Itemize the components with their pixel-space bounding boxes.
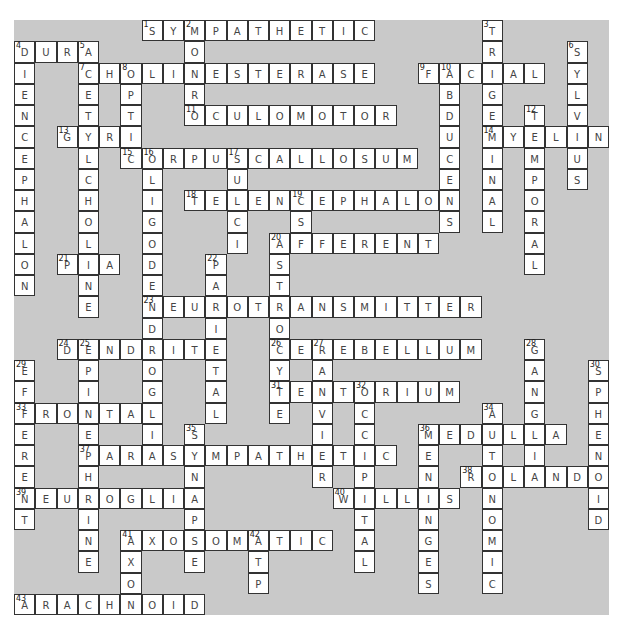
crossword-cell[interactable]: P — [205, 20, 226, 41]
crossword-cell[interactable]: E — [418, 445, 439, 466]
crossword-cell[interactable]: A — [57, 594, 78, 615]
crossword-cell[interactable]: I — [205, 318, 226, 339]
crossword-cell[interactable]: L — [524, 424, 545, 445]
crossword-cell[interactable]: N — [269, 190, 290, 211]
crossword-cell[interactable]: A — [354, 530, 375, 551]
crossword-cell[interactable]: L — [418, 339, 439, 360]
crossword-cell[interactable]: O — [227, 296, 248, 317]
crossword-cell[interactable]: T — [482, 445, 503, 466]
crossword-cell[interactable]: P — [227, 445, 248, 466]
crossword-cell[interactable]: 5A — [78, 41, 99, 62]
crossword-cell[interactable]: N — [545, 466, 566, 487]
crossword-cell[interactable]: C — [354, 424, 375, 445]
crossword-cell[interactable]: Y — [269, 360, 290, 381]
crossword-cell[interactable]: L — [227, 190, 248, 211]
crossword-cell[interactable]: A — [227, 20, 248, 41]
crossword-cell[interactable]: E — [354, 63, 375, 84]
crossword-cell[interactable]: M — [397, 148, 418, 169]
crossword-cell[interactable]: L — [354, 551, 375, 572]
crossword-cell[interactable]: U — [205, 148, 226, 169]
crossword-cell[interactable]: I — [567, 126, 588, 147]
crossword-cell[interactable]: E — [418, 551, 439, 572]
crossword-cell[interactable]: A — [524, 360, 545, 381]
crossword-cell[interactable]: E — [375, 233, 396, 254]
crossword-cell[interactable]: Y — [567, 63, 588, 84]
crossword-cell[interactable]: M — [205, 445, 226, 466]
crossword-cell[interactable]: C — [227, 211, 248, 232]
crossword-cell[interactable]: A — [545, 424, 566, 445]
crossword-cell[interactable]: A — [269, 148, 290, 169]
crossword-cell[interactable]: O — [269, 105, 290, 126]
crossword-cell[interactable]: H — [588, 403, 609, 424]
crossword-cell[interactable]: 4D — [14, 41, 35, 62]
crossword-cell[interactable]: G — [120, 488, 141, 509]
crossword-cell[interactable]: G — [524, 403, 545, 424]
crossword-cell[interactable]: O — [142, 233, 163, 254]
crossword-cell[interactable]: I — [142, 424, 163, 445]
crossword-cell[interactable]: P — [354, 466, 375, 487]
crossword-cell[interactable]: N — [439, 190, 460, 211]
crossword-cell[interactable]: N — [120, 594, 141, 615]
crossword-cell[interactable]: L — [14, 233, 35, 254]
crossword-cell[interactable]: M — [482, 530, 503, 551]
crossword-cell[interactable]: N — [312, 381, 333, 402]
crossword-cell[interactable]: E — [290, 339, 311, 360]
crossword-cell[interactable]: L — [397, 190, 418, 211]
crossword-cell[interactable]: O — [524, 190, 545, 211]
crossword-cell[interactable]: I — [397, 381, 418, 402]
crossword-cell[interactable]: N — [184, 466, 205, 487]
crossword-cell[interactable]: E — [78, 424, 99, 445]
crossword-cell[interactable]: E — [205, 339, 226, 360]
crossword-cell[interactable]: P — [78, 360, 99, 381]
crossword-cell[interactable]: N — [524, 381, 545, 402]
crossword-cell[interactable]: R — [99, 126, 120, 147]
crossword-cell[interactable]: T — [120, 105, 141, 126]
crossword-cell[interactable]: I — [14, 63, 35, 84]
crossword-cell[interactable]: E — [205, 190, 226, 211]
crossword-cell[interactable]: H — [354, 190, 375, 211]
crossword-cell[interactable]: L — [78, 233, 99, 254]
crossword-cell[interactable]: M — [524, 148, 545, 169]
crossword-cell[interactable]: B — [354, 339, 375, 360]
crossword-cell[interactable]: 30S — [588, 360, 609, 381]
crossword-cell[interactable]: 33F — [14, 403, 35, 424]
crossword-cell[interactable]: 10A — [439, 63, 460, 84]
crossword-cell[interactable]: H — [99, 63, 120, 84]
crossword-cell[interactable]: O — [312, 105, 333, 126]
crossword-cell[interactable]: 34A — [482, 403, 503, 424]
crossword-cell[interactable]: O — [333, 148, 354, 169]
crossword-cell[interactable]: I — [227, 233, 248, 254]
crossword-cell[interactable]: 40W — [333, 488, 354, 509]
crossword-cell[interactable]: O — [205, 530, 226, 551]
crossword-cell[interactable]: U — [227, 169, 248, 190]
crossword-cell[interactable]: S — [439, 211, 460, 232]
crossword-cell[interactable]: N — [14, 275, 35, 296]
crossword-cell[interactable]: D — [142, 318, 163, 339]
crossword-cell[interactable]: T — [248, 296, 269, 317]
crossword-cell[interactable]: C — [439, 148, 460, 169]
crossword-cell[interactable]: 20A — [269, 233, 290, 254]
crossword-cell[interactable]: O — [99, 488, 120, 509]
crossword-cell[interactable]: N — [14, 105, 35, 126]
crossword-cell[interactable]: E — [269, 63, 290, 84]
crossword-cell[interactable]: N — [78, 403, 99, 424]
crossword-cell[interactable]: L — [142, 488, 163, 509]
crossword-cell[interactable]: T — [99, 403, 120, 424]
crossword-cell[interactable]: C — [78, 594, 99, 615]
crossword-cell[interactable]: E — [375, 339, 396, 360]
crossword-cell[interactable]: M — [227, 530, 248, 551]
crossword-cell[interactable]: D — [567, 466, 588, 487]
crossword-cell[interactable]: E — [78, 296, 99, 317]
crossword-cell[interactable]: 9F — [418, 63, 439, 84]
crossword-cell[interactable]: C — [482, 573, 503, 594]
crossword-cell[interactable]: 14M — [482, 126, 503, 147]
crossword-cell[interactable]: E — [14, 84, 35, 105]
crossword-cell[interactable]: F — [14, 381, 35, 402]
crossword-cell[interactable]: 39N — [14, 488, 35, 509]
crossword-cell[interactable]: C — [205, 105, 226, 126]
crossword-cell[interactable]: 38R — [460, 466, 481, 487]
crossword-cell[interactable]: P — [120, 84, 141, 105]
crossword-cell[interactable]: C — [354, 20, 375, 41]
crossword-cell[interactable]: R — [375, 381, 396, 402]
crossword-cell[interactable]: E — [290, 381, 311, 402]
